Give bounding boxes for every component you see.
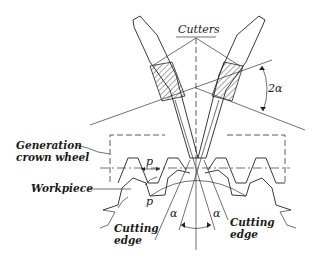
label-pitch-top: p	[146, 155, 153, 168]
angle-2alpha-lines	[90, 60, 305, 130]
label-cutting-edge-left-2: edge	[114, 234, 142, 246]
label-crown-wheel: crown wheel	[16, 151, 89, 163]
label-cutting-edge-left-1: Cutting	[114, 222, 159, 234]
label-workpiece: Workpiece	[31, 182, 93, 194]
label-alpha-left: α	[170, 207, 178, 220]
gear-cutting-diagram: Cutters 2α Generation crown wheel p Work…	[0, 0, 319, 259]
cutting-edge-lines	[155, 100, 228, 250]
crown-wheel-outline	[100, 135, 290, 182]
left-cutter-hatch	[150, 62, 185, 101]
label-cutters: Cutters	[178, 23, 220, 36]
label-cutting-edge-right-2: edge	[230, 228, 258, 240]
pitch-arrows	[118, 167, 160, 208]
label-2alpha: 2α	[267, 82, 283, 95]
label-alpha-right: α	[213, 207, 221, 220]
label-pitch-bottom: p	[146, 195, 153, 208]
label-generation: Generation	[16, 139, 82, 151]
right-cutter-hatch	[212, 62, 243, 101]
label-cutting-edge-right-1: Cutting	[230, 216, 275, 228]
